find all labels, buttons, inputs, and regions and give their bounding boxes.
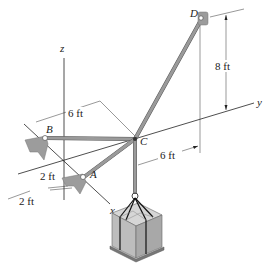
point-C-label: C [140, 135, 148, 147]
cable-CD [135, 20, 201, 139]
dim-2ft-lower-label: 2 ft [40, 170, 55, 182]
y-axis-label: y [256, 96, 262, 108]
dim-6ft-bottom-label: 6 ft [160, 149, 175, 161]
statics-diagram: z y x 8 ft 6 ft 6 ft 2 ft [0, 0, 273, 267]
dim-8ft-label: 8 ft [215, 60, 230, 72]
dimension-2ft-upper: 2 ft [8, 191, 34, 207]
dim-6ft-top-label: 6 ft [68, 107, 83, 119]
point-A-label: A [89, 168, 97, 180]
dimension-8ft: 8 ft [210, 9, 244, 110]
z-axis-label: z [59, 42, 65, 54]
cable-CB [46, 138, 135, 139]
z-axis: z [59, 42, 65, 200]
bracket-D: D [189, 7, 208, 25]
bracket-A: A [62, 168, 97, 194]
point-D-label: D [189, 7, 198, 19]
dim-2ft-upper-label: 2 ft [19, 195, 34, 207]
point-C [133, 137, 137, 141]
dimension-6ft-bottom: 6 ft [138, 146, 198, 165]
crate [110, 193, 164, 262]
point-B-label: B [46, 123, 53, 135]
